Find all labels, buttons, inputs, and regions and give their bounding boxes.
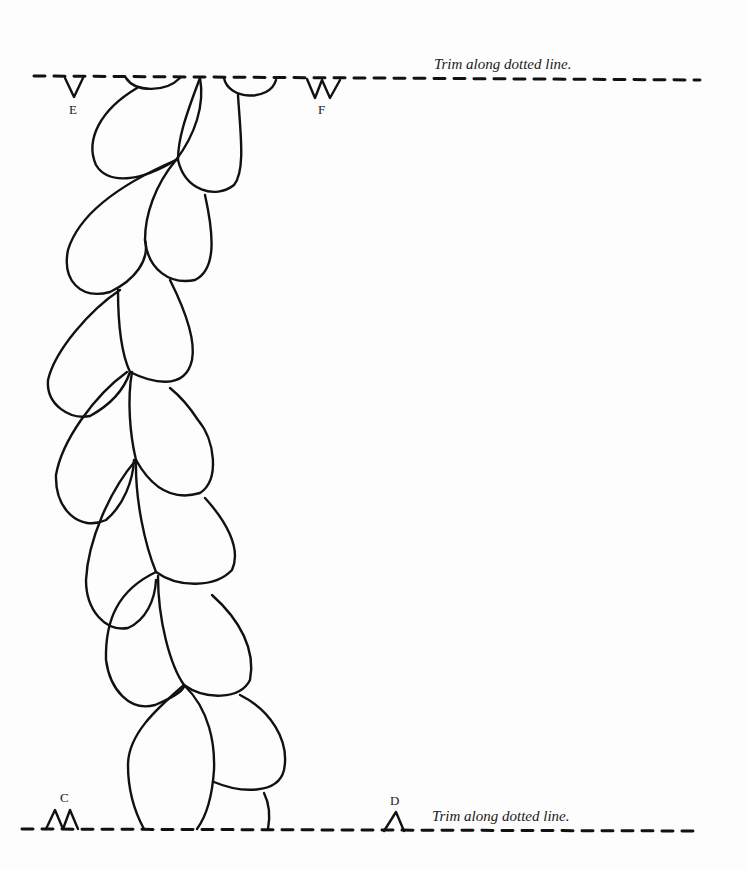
vine-artwork — [0, 0, 747, 869]
top-trim-line — [34, 76, 700, 80]
marker-f-label: F — [318, 102, 325, 118]
marker-d-shape — [384, 812, 404, 831]
marker-f-shape — [307, 79, 340, 98]
template-page: Trim along dotted line. Trim along dotte… — [0, 0, 747, 869]
top-trim-instruction: Trim along dotted line. — [434, 56, 572, 73]
bottom-trim-instruction: Trim along dotted line. — [432, 808, 570, 825]
marker-e-shape — [65, 78, 83, 97]
marker-e-label: E — [69, 102, 77, 118]
marker-d-label: D — [390, 793, 399, 809]
marker-c-label: C — [60, 790, 69, 806]
bottom-trim-line — [22, 829, 700, 831]
marker-c-shape — [46, 810, 78, 829]
